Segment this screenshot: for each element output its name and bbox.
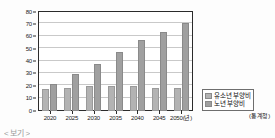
bottom-caption: < 보기 > xyxy=(4,129,30,137)
y-axis-tick-mark xyxy=(33,48,36,49)
x-axis-tick-mark xyxy=(94,111,95,114)
bar-group xyxy=(148,12,170,111)
x-axis-tick-mark xyxy=(137,111,138,114)
legend-swatch-old xyxy=(205,101,212,107)
y-axis-tick-label: 0 xyxy=(29,108,32,114)
bar-old-age-dependency xyxy=(94,64,101,111)
x-axis-tick-label: 2025 xyxy=(66,115,79,122)
x-axis-tick-label: 2045 xyxy=(153,115,166,122)
bar-youth-dependency xyxy=(174,88,181,112)
y-axis-tick-mark xyxy=(33,98,36,99)
y-axis-tick-mark xyxy=(33,85,36,86)
legend-label-old: 노년 부양비 xyxy=(214,100,245,108)
bar-series-container xyxy=(39,12,192,111)
x-axis-tick-mark xyxy=(50,111,51,114)
bar-youth-dependency xyxy=(130,86,137,111)
source-note: (통계청) xyxy=(249,113,270,120)
chart-legend: 유소년 부양비 노년 부양비 xyxy=(202,89,254,111)
x-axis: 2020202520302035204020452050(년) xyxy=(38,111,193,125)
y-axis-tick-mark xyxy=(33,73,36,74)
bar-group xyxy=(170,12,192,111)
bar-group xyxy=(39,12,61,111)
y-axis-tick-label: 60 xyxy=(26,33,32,39)
y-axis-tick-label: 50 xyxy=(26,46,32,52)
y-axis-tick-mark xyxy=(33,110,36,111)
bar-old-age-dependency xyxy=(182,23,189,111)
bar-group xyxy=(126,12,148,111)
y-axis-tick-label: 30 xyxy=(26,70,32,76)
x-axis-tick-label: 2050(년) xyxy=(170,115,192,122)
y-axis-tick-label: 80 xyxy=(26,9,32,15)
bar-old-age-dependency xyxy=(138,40,145,111)
x-axis-tick-mark xyxy=(72,111,73,114)
y-axis-tick-mark xyxy=(33,61,36,62)
y-axis: 01020304050607080 xyxy=(0,4,36,118)
legend-label-youth: 유소년 부양비 xyxy=(214,92,250,100)
bar-old-age-dependency xyxy=(116,52,123,111)
legend-item-old: 노년 부양비 xyxy=(205,100,250,108)
y-axis-tick-label: 20 xyxy=(26,83,32,89)
bar-youth-dependency xyxy=(108,86,115,111)
chart-figure: 01020304050607080 2020202520302035204020… xyxy=(0,0,275,138)
bar-group xyxy=(83,12,105,111)
y-axis-tick-label: 40 xyxy=(26,58,32,64)
bar-group xyxy=(105,12,127,111)
x-axis-tick-mark xyxy=(181,111,182,114)
x-axis-tick-label: 2030 xyxy=(87,115,100,122)
x-axis-tick-mark xyxy=(116,111,117,114)
bar-old-age-dependency xyxy=(50,84,57,111)
y-axis-tick-mark xyxy=(33,36,36,37)
legend-item-youth: 유소년 부양비 xyxy=(205,92,250,100)
bar-youth-dependency xyxy=(42,89,49,111)
y-axis-tick-label: 10 xyxy=(26,95,32,101)
bar-youth-dependency xyxy=(152,88,159,112)
y-axis-tick-mark xyxy=(33,11,36,12)
x-axis-tick-label: 2020 xyxy=(44,115,57,122)
x-axis-tick-mark xyxy=(159,111,160,114)
x-axis-tick-label: 2040 xyxy=(131,115,144,122)
x-axis-tick-label: 2035 xyxy=(109,115,122,122)
bar-youth-dependency xyxy=(86,86,93,111)
bar-old-age-dependency xyxy=(72,74,79,111)
y-axis-tick-label: 70 xyxy=(26,21,32,27)
y-axis-tick-mark xyxy=(33,23,36,24)
bar-group xyxy=(61,12,83,111)
bar-youth-dependency xyxy=(64,88,71,112)
legend-swatch-youth xyxy=(205,93,212,99)
bar-old-age-dependency xyxy=(160,32,167,111)
